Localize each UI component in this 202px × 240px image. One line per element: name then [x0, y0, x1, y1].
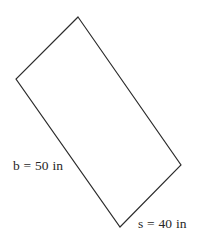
geometry-figure: b = 50 in s = 40 in	[0, 0, 202, 240]
rectangle-diagram	[0, 0, 202, 240]
side-length-label: s = 40 in	[138, 217, 187, 231]
rectangle-outline	[16, 17, 181, 227]
base-length-label: b = 50 in	[13, 159, 63, 173]
